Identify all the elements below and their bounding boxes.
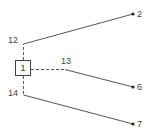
end-label-7: 7 <box>137 120 142 129</box>
root-node-label: 1 <box>20 63 25 73</box>
junction-label-13: 13 <box>61 57 71 66</box>
end-label-6: 6 <box>137 83 142 92</box>
junction-label-14: 14 <box>8 89 18 98</box>
junction-label-12: 12 <box>8 36 18 45</box>
root-node: 1 <box>15 60 31 76</box>
endpoint-dot <box>131 85 134 88</box>
endpoint-dot <box>131 122 134 125</box>
endpoint-dot <box>131 12 134 15</box>
end-label-2: 2 <box>137 10 142 19</box>
